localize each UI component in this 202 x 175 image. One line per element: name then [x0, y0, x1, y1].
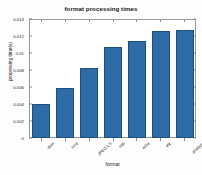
bar [56, 88, 74, 137]
y-axis-tick-mark-right [194, 70, 197, 71]
y-axis-tick-label: 0.012 [13, 34, 24, 39]
bar [104, 47, 122, 138]
bar [32, 104, 50, 138]
x-axis-tick-mark [136, 138, 137, 141]
x-axis-tick-mark-top [65, 20, 66, 23]
y-axis-tick-mark-right [194, 138, 197, 139]
x-axis-tick-mark [160, 138, 161, 141]
y-axis-tick-label: 0.004 [13, 102, 24, 107]
x-axis-tick-label: analyze [191, 141, 202, 154]
y-axis-tick-label: 0.006 [13, 85, 24, 90]
x-axis-tick-label: nrrd [70, 141, 79, 150]
x-axis-tick-label: vtk [165, 141, 172, 148]
x-axis-tick-mark-top [89, 20, 90, 23]
chart-figure: format processing times 00.0020.0040.006… [0, 0, 202, 175]
y-axis-tick-mark [29, 70, 32, 71]
y-axis-tick-mark-right [194, 121, 197, 122]
y-axis-tick-mark [29, 53, 32, 54]
bar-series [30, 20, 196, 138]
x-axis-tick-mark-top [160, 20, 161, 23]
y-axis-tick-mark [29, 19, 32, 20]
x-axis-tick-mark-top [41, 20, 42, 23]
y-axis-tick-mark-right [194, 19, 197, 20]
y-axis-tick-mark-right [194, 87, 197, 88]
x-axis-tick-mark [89, 138, 90, 141]
y-axis-tick-label: 0.008 [13, 68, 24, 73]
chart-title: format processing times [0, 5, 202, 12]
y-axis-tick-mark [29, 138, 32, 139]
x-axis-tick-label: dcm [46, 141, 55, 150]
y-axis-tick-mark [29, 87, 32, 88]
y-axis-label: processing time(s) [8, 26, 13, 98]
y-axis-tick-mark [29, 36, 32, 37]
y-axis-tick-mark-right [194, 36, 197, 37]
bar [152, 31, 170, 137]
y-axis-tick-mark [29, 104, 32, 105]
y-axis-tick-mark [29, 121, 32, 122]
x-axis-tick-label: mha [141, 141, 150, 150]
x-axis-label: format [29, 161, 196, 167]
x-axis-tick-mark [184, 138, 185, 141]
bar [128, 41, 146, 138]
y-axis-tick-mark-right [194, 104, 197, 105]
x-axis-tick-mark [113, 138, 114, 141]
y-axis-tick-label: 0.002 [13, 119, 24, 124]
bar [80, 68, 98, 138]
y-axis-tick-mark-right [194, 53, 197, 54]
y-axis-tick-label: 0.014 [13, 17, 24, 22]
x-axis-tick-mark-top [184, 20, 185, 23]
x-axis-tick-mark [41, 138, 42, 141]
x-axis-tick-mark [65, 138, 66, 141]
y-axis-tick-labels: 00.0020.0040.0060.0080.010.0120.014 [0, 19, 27, 138]
y-axis-tick-label: 0 [22, 136, 24, 141]
x-axis-tick-mark-top [136, 20, 137, 23]
x-axis-tick-mark-top [113, 20, 114, 23]
y-axis-tick-label: 0.01 [16, 51, 24, 56]
x-axis-tick-label: JPEG-LS [96, 141, 112, 156]
bar [176, 30, 194, 137]
x-axis-tick-label: nifti [117, 141, 125, 149]
